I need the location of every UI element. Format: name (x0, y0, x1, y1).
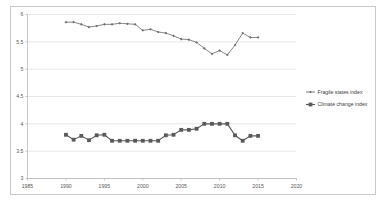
axes-group (26, 15, 297, 181)
series-line-1 (66, 22, 258, 55)
data-point-marker-square (110, 139, 114, 143)
data-point-marker-square (126, 139, 130, 143)
data-point-marker-square (164, 133, 168, 137)
data-point-marker-square (195, 127, 199, 131)
y-tick-label: 6 (21, 11, 24, 17)
data-point-marker-diamond (111, 23, 114, 26)
data-point-marker-diamond (149, 28, 152, 31)
legend-item-1[interactable]: Fragile states index (306, 89, 363, 95)
data-point-marker-square (64, 133, 68, 137)
legend-label: Fragile states index (318, 89, 363, 95)
x-tick-label: 2020 (291, 183, 303, 189)
data-point-marker-square (179, 128, 183, 132)
data-point-marker-diamond (157, 31, 160, 34)
data-point-marker-square (102, 133, 106, 137)
data-point-marker-diamond (180, 38, 183, 41)
data-point-marker-diamond (257, 36, 260, 39)
x-tick-label: 2005 (175, 183, 187, 189)
data-series-group (64, 21, 260, 143)
legend-item-2[interactable]: Climate change index (306, 101, 368, 107)
data-point-marker-square (133, 139, 137, 143)
y-tick-label: 3.5 (16, 148, 23, 154)
data-point-marker-square (95, 133, 99, 137)
data-point-marker-square (233, 133, 237, 137)
data-point-marker-square (172, 133, 176, 137)
data-point-marker-square (149, 139, 153, 143)
data-point-marker-square (72, 138, 76, 142)
data-point-marker-square (141, 139, 145, 143)
x-tick-label: 2010 (214, 183, 226, 189)
data-point-marker-square (118, 139, 122, 143)
y-tick-label: 5 (21, 66, 24, 72)
data-point-marker-diamond (103, 23, 106, 26)
data-point-marker-square (187, 128, 191, 132)
data-point-marker-diamond (118, 22, 121, 25)
data-point-marker-square (156, 139, 160, 143)
x-tick-label: 1995 (99, 183, 111, 189)
x-tick-label: 2015 (252, 183, 264, 189)
chart-figure: 33.544.555.56 19851990199520002005201020… (0, 0, 387, 204)
series-2 (64, 122, 260, 143)
legend-label: Climate change index (318, 101, 368, 107)
data-point-marker-square (256, 134, 260, 138)
data-point-marker-square (202, 122, 206, 126)
y-tick-label: 4.5 (16, 93, 23, 99)
x-tick-label: 2000 (137, 183, 149, 189)
data-point-marker-square (79, 134, 83, 138)
data-point-marker-square (241, 139, 245, 143)
data-point-marker-square (87, 138, 91, 142)
data-point-marker-diamond (88, 26, 91, 29)
series-line-2 (66, 124, 258, 141)
chart-legend: Fragile states indexClimate change index (306, 89, 368, 108)
data-point-marker-diamond (188, 38, 191, 41)
legend-marker-square (309, 103, 313, 107)
data-point-marker-diamond (95, 25, 98, 28)
data-point-marker-diamond (126, 22, 129, 25)
data-point-marker-square (248, 134, 252, 138)
data-point-marker-square (210, 122, 214, 126)
data-point-marker-diamond (164, 32, 167, 35)
data-point-marker-diamond (65, 21, 68, 24)
y-tick-label: 4 (21, 121, 24, 127)
line-chart-plot: 33.544.555.56 19851990199520002005201020… (0, 0, 387, 204)
series-1 (65, 21, 260, 57)
y-axis-tick-labels: 33.544.555.56 (16, 11, 23, 181)
data-point-marker-square (218, 122, 222, 126)
x-tick-label: 1985 (22, 183, 34, 189)
data-point-marker-diamond (80, 23, 83, 26)
legend-marker-diamond (309, 91, 312, 94)
data-point-marker-diamond (172, 34, 175, 37)
y-tick-label: 3 (21, 175, 24, 181)
y-tick-label: 5.5 (16, 39, 23, 45)
x-axis-tick-labels: 19851990199520002005201020152020 (22, 183, 303, 189)
data-point-marker-diamond (72, 21, 75, 24)
gridlines-group (28, 15, 297, 179)
data-point-marker-square (225, 122, 229, 126)
x-tick-label: 1990 (60, 183, 72, 189)
